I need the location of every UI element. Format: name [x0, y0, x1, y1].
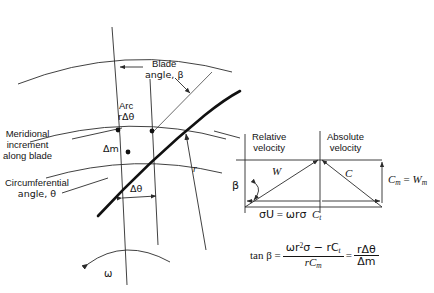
meridional-leader: [72, 128, 122, 139]
equation-fraction-2: rΔθ Δm: [354, 244, 379, 267]
middle-arc: [30, 126, 226, 142]
delta-m-label: Δm: [103, 143, 119, 154]
figure-container: Blade angle, β Arc rΔθ Meridional increm…: [0, 0, 434, 293]
base-velocity-label: σU = ωrσ Ct: [259, 209, 321, 223]
tan-beta-equation: tan β = ωr2σ − rCt rCm = rΔθ Δm: [250, 240, 379, 271]
radius-dimension-line: [186, 134, 206, 250]
node-dots: [116, 128, 155, 155]
node-dot-delta-m: [126, 150, 131, 155]
relative-velocity-header: Relative velocity: [252, 131, 286, 153]
arc-label: Arc rΔθ: [118, 100, 134, 122]
absolute-velocity-label: C: [345, 168, 352, 179]
blade-angle-label: Blade angle, β: [145, 58, 183, 80]
tangent-construction-line: [152, 72, 212, 133]
relative-velocity-label: W: [272, 166, 281, 177]
meridional-increment-label: Meridional increment along blade: [3, 128, 52, 161]
radius-label: r: [193, 163, 197, 174]
circumferential-angle-label: Circumferential angle, θ: [5, 177, 69, 199]
relative-velocity-vector: [245, 160, 318, 207]
beta-angle-arc: [254, 184, 259, 200]
rotation-arc: [88, 250, 170, 264]
omega-label: ω: [104, 268, 112, 279]
radial-line-primary: [112, 27, 127, 285]
equation-fraction-1: ωr2σ − rCt rCm: [283, 240, 344, 271]
absolute-velocity-header: Absolute velocity: [327, 131, 364, 153]
circumferential-leader: [62, 178, 108, 193]
beta-leader: [175, 78, 190, 93]
outer-arc: [18, 60, 232, 85]
node-dot-right: [150, 129, 155, 134]
delta-theta-label: Δθ: [130, 183, 142, 194]
beta-angle-label: β: [232, 180, 239, 191]
delta-theta-dimension: [122, 196, 156, 198]
meridional-velocity-label: Cm = Wm: [388, 174, 427, 188]
node-dot-left: [116, 128, 121, 133]
